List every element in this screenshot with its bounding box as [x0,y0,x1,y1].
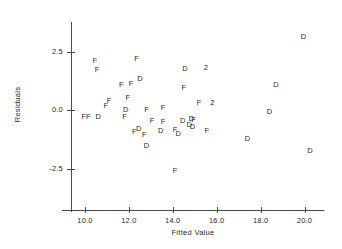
x-tick-label: 16.0 [202,216,232,225]
y-tick-mark [67,169,75,170]
y-tick-mark [67,110,75,111]
data-point-d: D [174,130,182,138]
y-tick-label: 0.0 [33,105,63,114]
data-point-2: 2 [202,64,210,72]
x-tick-mark [173,207,174,213]
data-point-f: F [127,80,135,88]
data-point-d: D [181,65,189,73]
data-point-d: D [136,75,144,83]
y-tick-label: 2.5 [33,47,63,56]
data-point-f: F [159,118,167,126]
data-point-f: F [203,127,211,135]
data-point-d: D [299,33,307,41]
data-point-f: F [140,131,148,139]
data-point-f: F [124,94,132,102]
data-point-f: F [84,113,92,121]
data-point-f: F [195,99,203,107]
data-point-f: F [121,113,129,121]
data-point-d: D [265,108,273,116]
data-point-d: D [272,81,280,89]
data-point-f: F [148,117,156,125]
data-point-f: F [159,104,167,112]
data-point-f: F [180,84,188,92]
data-point-2: 2 [208,99,216,107]
x-tick-label: 20.0 [290,216,320,225]
data-point-f: F [117,81,125,89]
y-tick-mark [67,52,75,53]
data-point-f: F [171,167,179,175]
x-tick-label: 18.0 [246,216,276,225]
data-point-d: D [189,123,197,131]
data-point-d: D [306,147,314,155]
data-point-f: F [93,66,101,74]
y-axis-line [71,22,72,212]
x-tick-label: 12.0 [114,216,144,225]
data-point-f: F [102,102,110,110]
y-tick-label: -2.5 [33,164,63,173]
data-point-d: D [157,127,165,135]
x-axis-line [62,210,324,211]
data-point-d: D [142,142,150,150]
data-point-f: F [142,106,150,114]
data-point-d: D [94,113,102,121]
x-tick-label: 10.0 [70,216,100,225]
x-tick-mark [261,207,262,213]
data-point-d: D [243,135,251,143]
x-tick-mark [129,207,130,213]
x-tick-label: 14.0 [158,216,188,225]
x-tick-mark [85,207,86,213]
x-tick-mark [217,207,218,213]
y-axis-title: Residuals [13,75,22,135]
data-point-f: F [133,55,141,63]
residuals-vs-fitted-scatter-plot: 2.50.0-2.5 10.012.014.016.018.020.0 Resi… [0,0,342,249]
x-tick-mark [305,207,306,213]
x-axis-title: Fitted Value [62,228,324,237]
